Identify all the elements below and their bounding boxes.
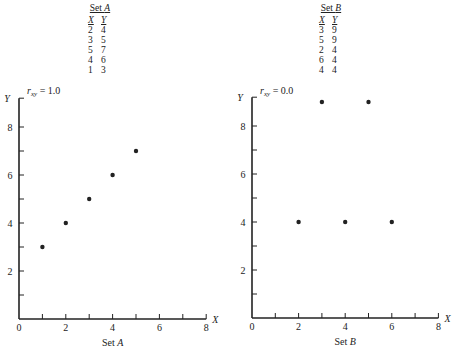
x-tick-label: 4 <box>343 321 348 332</box>
data-point <box>343 220 347 224</box>
x-tick-label: 6 <box>389 321 394 332</box>
data-point <box>40 245 44 249</box>
y-axis-label: Y <box>4 93 11 104</box>
y-tick-label: 4 <box>8 218 13 229</box>
x-tick-label: 0 <box>17 322 22 333</box>
y-tick-label: 8 <box>241 121 246 132</box>
data-point <box>64 221 68 225</box>
x-tick-label: 8 <box>436 321 441 332</box>
chart-caption: Set B <box>335 336 356 347</box>
chart-caption: Set A <box>102 337 124 348</box>
data-point <box>366 100 370 104</box>
y-tick-label: 4 <box>241 217 246 228</box>
x-axis-label: X <box>443 313 451 324</box>
x-tick-label: 0 <box>250 321 255 332</box>
y-tick-label: 8 <box>8 122 13 133</box>
data-point <box>87 197 91 201</box>
data-point <box>134 149 138 153</box>
data-point <box>320 100 324 104</box>
y-tick-label: 2 <box>241 265 246 276</box>
y-axis-label: Y <box>237 92 244 103</box>
correlation-annotation: rxy = 0.0 <box>260 85 293 98</box>
y-tick-label: 2 <box>8 266 13 277</box>
x-tick-label: 2 <box>63 322 68 333</box>
y-tick-label: 6 <box>241 169 246 180</box>
correlation-annotation: rxy = 1.0 <box>27 85 60 98</box>
x-tick-label: 8 <box>204 322 209 333</box>
scatter-plots: 246802468YXSet Arxy = 1.0246802468YXSet … <box>0 0 459 353</box>
x-tick-label: 2 <box>296 321 301 332</box>
x-tick-label: 6 <box>157 322 162 333</box>
x-axis-label: X <box>211 314 219 325</box>
x-tick-label: 4 <box>110 322 115 333</box>
data-point <box>296 220 300 224</box>
y-tick-label: 6 <box>8 170 13 181</box>
chart-set-a: 246802468YXSet Arxy = 1.0 <box>4 85 219 348</box>
chart-set-b: 246802468YXSet Brxy = 0.0 <box>237 85 451 347</box>
data-point <box>390 220 394 224</box>
data-point <box>110 173 114 177</box>
